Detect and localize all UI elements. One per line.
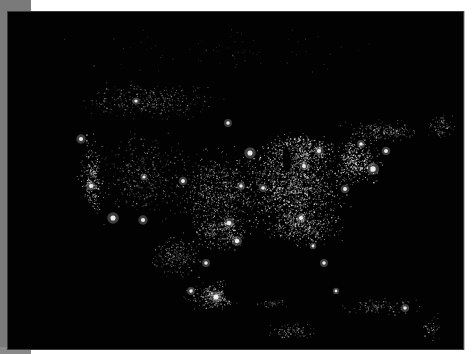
night-lights-satellite-image — [7, 11, 464, 350]
city-glows — [76, 97, 409, 312]
light-dots — [64, 25, 455, 341]
image-right-edge — [464, 11, 465, 350]
city-lights-layer — [8, 12, 464, 350]
